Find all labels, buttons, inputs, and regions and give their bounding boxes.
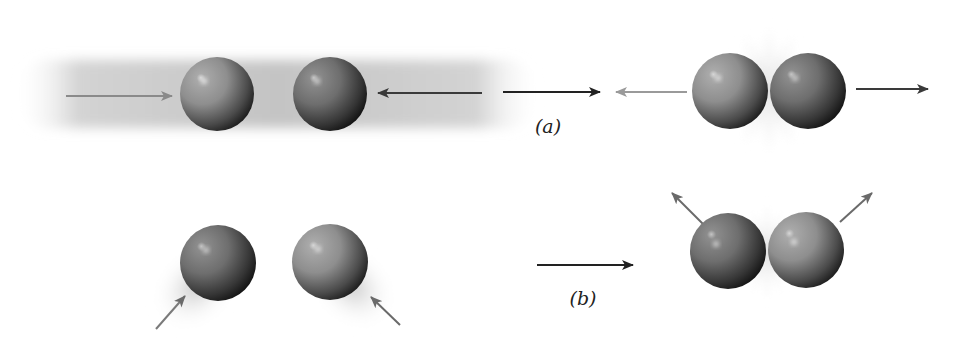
sphere-2 — [293, 57, 367, 131]
sphere-2-scatter-arrow — [840, 193, 872, 222]
sphere-1-scatter-arrow — [672, 193, 703, 224]
sphere-2 — [768, 212, 844, 288]
sphere-1-highlight — [713, 241, 719, 247]
sphere-1-highlight — [201, 78, 207, 84]
sphere-1 — [690, 213, 766, 289]
sphere-1-highlight — [715, 75, 721, 81]
sphere-2-highlight — [792, 75, 798, 81]
panel-a-label: (a) — [535, 115, 561, 137]
panel-b-before — [137, 224, 412, 345]
sphere-2-highlight — [315, 246, 321, 252]
sphere-1 — [692, 53, 768, 129]
sphere-2 — [292, 224, 368, 300]
sphere-2 — [770, 53, 846, 129]
sphere-1-highlight — [203, 247, 209, 253]
sphere-1 — [180, 225, 256, 301]
panel-a-after — [616, 18, 928, 162]
panel-b-after — [672, 193, 872, 307]
panel-b-label: (b) — [570, 287, 597, 309]
sphere-2-highlight — [791, 239, 797, 245]
panel-a-before — [15, 57, 540, 131]
collision-diagram — [0, 0, 964, 345]
sphere-2-highlight — [314, 78, 320, 84]
sphere-1 — [180, 57, 254, 131]
